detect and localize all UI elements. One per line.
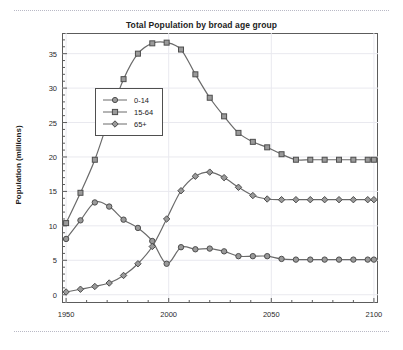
bottom-divider [14, 331, 389, 332]
x-tick-label: 1950 [58, 310, 75, 319]
chart-canvas [62, 33, 378, 303]
legend-label: 0-14 [134, 96, 149, 105]
legend-item-65-plus[interactable]: 65+ [102, 118, 153, 130]
legend-label: 65+ [134, 120, 147, 129]
legend-marker-circle-icon [102, 95, 128, 105]
chart-legend[interactable]: 0-14 15-64 65+ [95, 88, 163, 136]
legend-item-0-14[interactable]: 0-14 [102, 94, 153, 106]
chart-title: Total Population by broad age group [0, 20, 403, 30]
y-axis-label: Population (millions) [14, 0, 23, 100]
x-tick-label: 2000 [160, 310, 177, 319]
legend-label: 15-64 [134, 108, 153, 117]
y-tick-label: 25 [49, 118, 57, 127]
y-tick-label: 5 [53, 256, 57, 265]
y-axis-label-text: Population (millions) [14, 100, 23, 230]
top-divider [14, 10, 389, 11]
y-tick-label: 10 [49, 221, 57, 230]
plot-area: 05101520253035 1950200020502100 [62, 33, 378, 303]
y-tick-label: 0 [53, 290, 57, 299]
chart-page: Total Population by broad age group Popu… [0, 0, 403, 350]
y-tick-label: 35 [49, 49, 57, 58]
y-tick-label: 15 [49, 187, 57, 196]
legend-marker-square-icon [102, 107, 128, 117]
x-tick-label: 2100 [366, 310, 383, 319]
y-tick-label: 30 [49, 84, 57, 93]
legend-item-15-64[interactable]: 15-64 [102, 106, 153, 118]
y-tick-label: 20 [49, 152, 57, 161]
legend-marker-diamond-icon [102, 119, 128, 129]
x-tick-label: 2050 [263, 310, 280, 319]
